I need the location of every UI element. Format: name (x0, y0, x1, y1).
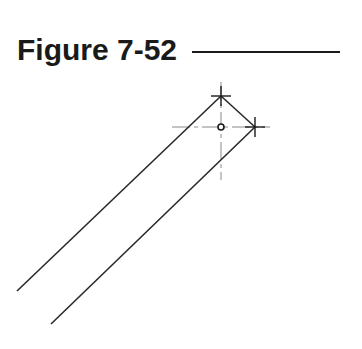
right-edge-line (51, 127, 255, 324)
left-edge-line (17, 96, 221, 291)
top-edge-line (221, 96, 255, 127)
center-point-icon (218, 124, 224, 130)
cad-drawing (0, 0, 362, 349)
